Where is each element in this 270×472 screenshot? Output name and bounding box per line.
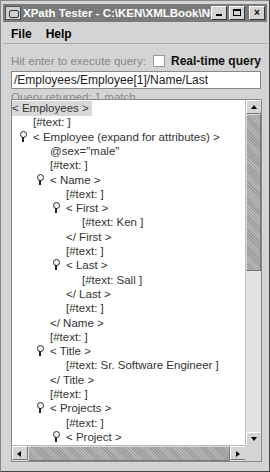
realtime-query-label[interactable]: Real-time query	[171, 54, 261, 68]
tree-node[interactable]: [#text: Sr. Software Engineer ]	[66, 358, 219, 373]
minimize-button[interactable]	[211, 6, 227, 20]
arrow-up-icon	[251, 105, 257, 109]
tree-node-label: [#text: Ken ]	[82, 216, 143, 228]
tree-node-label: [#text: ]	[66, 302, 104, 314]
tree-node-label: < Project >	[66, 431, 122, 443]
tree-node-label: [#text: ]	[66, 417, 104, 429]
tree-node-label: </ Last >	[66, 288, 111, 300]
vertical-scrollbar[interactable]	[245, 100, 261, 446]
tree-node-label: < Last >	[66, 259, 108, 271]
scroll-right-button[interactable]	[230, 446, 246, 460]
horizontal-scrollbar[interactable]	[12, 445, 246, 461]
tree-node[interactable]: [#text: ]	[50, 158, 88, 173]
tree-node[interactable]: < Employees >	[12, 101, 92, 116]
xml-tree: < Employees >[#text: ]< Employee (expand…	[12, 100, 246, 446]
close-button[interactable]: ×	[249, 6, 265, 20]
tree-node[interactable]: </ First >	[66, 230, 111, 245]
tree-expand-handle-icon[interactable]	[36, 402, 44, 414]
scroll-up-button[interactable]	[246, 100, 262, 114]
tree-node-label: @sex="male"	[50, 145, 119, 157]
tree-node-label: < Employee (expand for attributes) >	[33, 131, 220, 143]
tree-expand-handle-icon[interactable]	[19, 131, 27, 143]
tree-node-label: [#text: ]	[33, 116, 71, 128]
tree-node-expandable[interactable]: < Projects >	[50, 401, 111, 416]
tree-expand-handle-icon[interactable]	[52, 259, 60, 271]
tree-node-expandable[interactable]: < Employee (expand for attributes) >	[33, 130, 220, 145]
tree-node-expandable[interactable]: < Name >	[50, 173, 101, 188]
tree-node-label: </ Name >	[50, 317, 104, 329]
tree-node-label: </ First >	[66, 231, 111, 243]
arrow-right-icon	[236, 451, 240, 457]
tree-node[interactable]: [#text: ]	[66, 244, 104, 259]
tree-node[interactable]: [#text: ]	[66, 301, 104, 316]
tree-node-label: [#text: ]	[50, 388, 88, 400]
vertical-scroll-thumb[interactable]	[246, 114, 261, 271]
tree-node-expandable[interactable]: < Project >	[66, 430, 122, 445]
tree-node[interactable]: [#text: ]	[66, 187, 104, 202]
tree-node-label: < Employees >	[12, 102, 89, 114]
tree-node-label: </ Title >	[50, 374, 94, 386]
tree-node[interactable]: [#text: ]	[50, 387, 88, 402]
arrow-down-icon	[251, 437, 257, 441]
tree-node-label: < Projects >	[50, 402, 111, 414]
menu-help[interactable]: Help	[38, 27, 78, 41]
maximize-button[interactable]	[229, 6, 245, 20]
tree-expand-handle-icon[interactable]	[52, 202, 60, 214]
tree-node[interactable]: </ Last >	[66, 287, 111, 302]
tree-node-label: [#text: ]	[50, 159, 88, 171]
title-bar[interactable]: XPath Tester - C:\KEN\XMLBook\NOTE... ×	[3, 4, 267, 22]
tree-node-expandable[interactable]: < Last >	[66, 258, 108, 273]
tree-expand-handle-icon[interactable]	[36, 345, 44, 357]
menu-bar: File Help	[3, 24, 267, 44]
tree-node-expandable[interactable]: < Title >	[50, 344, 91, 359]
tree-node[interactable]: [#text: Ken ]	[82, 215, 143, 230]
scroll-corner	[245, 445, 261, 461]
tree-node-label: < First >	[66, 202, 108, 214]
xpath-query-input[interactable]: /Employees/Employee[1]/Name/Last	[11, 71, 261, 89]
tree-node-label: [#text: Sall ]	[82, 274, 142, 286]
tree-node[interactable]: [#text: ]	[33, 115, 71, 130]
xpath-tester-window: XPath Tester - C:\KEN\XMLBook\NOTE... × …	[0, 0, 270, 472]
window-title: XPath Tester - C:\KEN\XMLBook\NOTE...	[23, 7, 211, 19]
menu-file[interactable]: File	[3, 27, 38, 41]
scroll-left-button[interactable]	[12, 446, 28, 460]
query-hint: Hit enter to execute query:	[11, 55, 153, 67]
minimize-icon	[216, 14, 222, 16]
close-icon: ×	[254, 7, 260, 18]
tree-node[interactable]: </ Name >	[50, 316, 104, 331]
tree-expand-handle-icon[interactable]	[36, 174, 44, 186]
tree-node[interactable]: [#text: ]	[50, 330, 88, 345]
tree-node[interactable]: @sex="male"	[50, 144, 119, 159]
tree-node-expandable[interactable]: < First >	[66, 201, 108, 216]
result-tree-panel: < Employees >[#text: ]< Employee (expand…	[11, 99, 262, 462]
tree-node[interactable]: [#text: ]	[66, 416, 104, 431]
horizontal-scroll-thumb[interactable]	[28, 446, 230, 461]
tree-node-label: < Name >	[50, 174, 101, 186]
tree-node-label: [#text: ]	[66, 245, 104, 257]
tree-node-label: [#text: ]	[66, 188, 104, 200]
tree-node-label: [#text: ]	[50, 331, 88, 343]
tree-node[interactable]: [#text: Sall ]	[82, 273, 142, 288]
tree-expand-handle-icon[interactable]	[52, 431, 60, 443]
tree-node-label: < Title >	[50, 345, 91, 357]
app-icon[interactable]	[5, 6, 21, 20]
query-hint-row: Hit enter to execute query: Real-time qu…	[11, 53, 261, 69]
scroll-down-button[interactable]	[246, 432, 262, 446]
maximize-icon	[233, 9, 241, 16]
tree-node-label: [#text: Sr. Software Engineer ]	[66, 359, 219, 371]
tree-node[interactable]: </ Title >	[50, 373, 94, 388]
arrow-left-icon	[17, 451, 21, 457]
realtime-query-checkbox[interactable]	[153, 55, 165, 67]
